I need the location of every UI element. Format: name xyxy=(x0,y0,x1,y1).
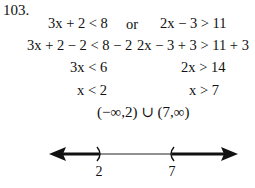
number-line xyxy=(0,0,255,188)
tick-label-2: 2 xyxy=(96,165,103,179)
tick-label-7: 7 xyxy=(169,165,176,179)
